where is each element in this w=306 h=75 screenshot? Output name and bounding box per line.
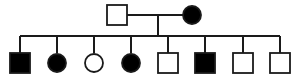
pedigree-symbol-ii-6-male-affected: II II-6 — male, affected	[195, 53, 215, 73]
connector-lines	[20, 15, 280, 53]
pedigree-symbol-ii-1-male-affected: II II-1 — male, affected	[10, 53, 30, 73]
pedigree-symbol-i-2-female-affected: I I-2 — female, affected	[183, 6, 201, 24]
pedigree-canvas: I I-1 — male, unaffectedI I-2 — female, …	[0, 0, 306, 75]
pedigree-symbol-ii-8-male-unaffected: II II-8 — male, unaffected	[270, 53, 290, 73]
pedigree-symbol-ii-7-male-unaffected: II II-7 — male, unaffected	[233, 53, 253, 73]
pedigree-symbol-ii-4-female-affected: II II-4 — female, affected	[122, 54, 140, 72]
pedigree-symbol-ii-3-female-unaffected: II II-3 — female, unaffected	[85, 54, 103, 72]
pedigree-chart: I I-1 — male, unaffectedI I-2 — female, …	[0, 0, 306, 75]
pedigree-symbol-ii-5-male-unaffected: II II-5 — male, unaffected	[158, 53, 178, 73]
pedigree-symbol-ii-2-female-affected: II II-2 — female, affected	[48, 54, 66, 72]
pedigree-symbol-i-1-male-unaffected: I I-1 — male, unaffected	[107, 5, 127, 25]
